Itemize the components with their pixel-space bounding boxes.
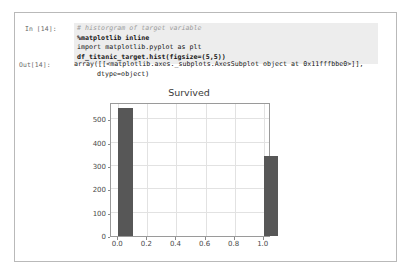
y-axis-tick-mark <box>108 190 111 191</box>
x-axis-tick-mark <box>117 237 118 240</box>
notebook-cell-frame: In [14]: # historgram of target variable… <box>14 12 397 262</box>
x-axis-tick-mark <box>263 237 264 240</box>
gridline-horizontal <box>111 212 269 213</box>
x-axis-tick-label: 1.0 <box>248 240 278 248</box>
histogram-bar <box>118 108 133 236</box>
histogram-figure: Survived 0100200300400500 0.00.20.40.60.… <box>70 87 360 259</box>
screenshot-root: In [14]: # historgram of target variable… <box>0 0 415 275</box>
y-axis-tick-label: 300 <box>72 163 106 171</box>
y-axis-tick-mark <box>108 214 111 215</box>
x-axis-tick-label: 0.8 <box>219 240 249 248</box>
histogram-bar <box>264 156 279 236</box>
gridline-horizontal <box>111 118 269 119</box>
y-axis-tick-label: 500 <box>72 116 106 124</box>
code-line-2: %matplotlib inline <box>77 34 375 44</box>
y-axis-tick-mark <box>108 144 111 145</box>
x-axis-tick-mark <box>205 237 206 240</box>
y-axis-tick-label: 100 <box>72 210 106 218</box>
gridline-vertical <box>206 104 207 236</box>
code-line-3: import matplotlib.pyplot as plt <box>77 43 375 53</box>
gridline-horizontal <box>111 188 269 189</box>
x-axis-tick-mark <box>146 237 147 240</box>
y-axis-tick-label: 0 <box>72 233 106 241</box>
output-line-2: dtype=object) <box>74 70 404 80</box>
x-axis-tick-label: 0.4 <box>160 240 190 248</box>
gridline-vertical <box>176 104 177 236</box>
plot-area <box>110 103 270 237</box>
x-axis-tick-mark <box>234 237 235 240</box>
y-axis-tick-mark <box>108 120 111 121</box>
chart-title: Survived <box>70 87 308 98</box>
y-axis-tick-label: 400 <box>72 140 106 148</box>
x-axis-tick-label: 0.0 <box>102 240 132 248</box>
code-line-1: # historgram of target variable <box>77 24 375 34</box>
y-axis-tick-mark <box>108 167 111 168</box>
output-prompt-label: Out[14]: <box>19 61 51 69</box>
output-cell: array([[<matplotlib.axes._subplots.AxesS… <box>74 60 404 80</box>
x-axis-tick-label: 0.6 <box>190 240 220 248</box>
gridline-horizontal <box>111 142 269 143</box>
y-axis-tick-label: 200 <box>72 186 106 194</box>
y-axis-tick-mark <box>108 237 111 238</box>
gridline-vertical <box>235 104 236 236</box>
output-line-1: array([[<matplotlib.axes._subplots.AxesS… <box>74 60 404 70</box>
gridline-horizontal <box>111 165 269 166</box>
x-axis-tick-mark <box>175 237 176 240</box>
code-editor[interactable]: # historgram of target variable %matplot… <box>74 23 378 64</box>
input-prompt-label: In [14]: <box>25 25 57 33</box>
gridline-vertical <box>147 104 148 236</box>
x-axis-tick-label: 0.2 <box>131 240 161 248</box>
